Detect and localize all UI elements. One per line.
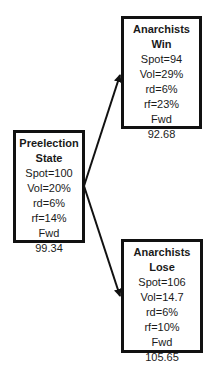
- spot-value: Spot=100: [16, 166, 82, 181]
- node-title: Anarchists: [124, 245, 200, 260]
- node-anarchists-lose: Anarchists Lose Spot=106 Vol=14.7 rd=6% …: [121, 239, 203, 353]
- spot-value: Spot=106: [124, 275, 200, 290]
- arrow-to-win: [84, 75, 120, 186]
- rf-value: rf=10%: [124, 320, 200, 335]
- rf-value: rf=14%: [16, 211, 82, 226]
- fwd-value: 105.65: [124, 350, 200, 365]
- node-preelection-state: Preelection State Spot=100 Vol=20% rd=6%…: [13, 130, 85, 243]
- spot-value: Spot=94: [124, 52, 199, 67]
- rd-value: rd=6%: [124, 82, 199, 97]
- vol-value: Vol=20%: [16, 181, 82, 196]
- fwd-value: 99.34: [16, 241, 82, 256]
- fwd-label: Fwd: [16, 226, 82, 241]
- node-title: Anarchists: [124, 22, 199, 37]
- node-subtitle: State: [16, 151, 82, 166]
- arrow-to-lose: [84, 186, 120, 296]
- vol-value: Vol=29%: [124, 67, 199, 82]
- node-subtitle: Win: [124, 37, 199, 52]
- fwd-label: Fwd: [124, 335, 200, 350]
- rd-value: rd=6%: [124, 305, 200, 320]
- vol-value: Vol=14.7: [124, 290, 200, 305]
- rf-value: rf=23%: [124, 97, 199, 112]
- node-title: Preelection: [16, 136, 82, 151]
- node-subtitle: Lose: [124, 260, 200, 275]
- rd-value: rd=6%: [16, 196, 82, 211]
- fwd-label: Fwd: [124, 112, 199, 127]
- node-anarchists-win: Anarchists Win Spot=94 Vol=29% rd=6% rf=…: [121, 16, 202, 129]
- fwd-value: 92.68: [124, 127, 199, 142]
